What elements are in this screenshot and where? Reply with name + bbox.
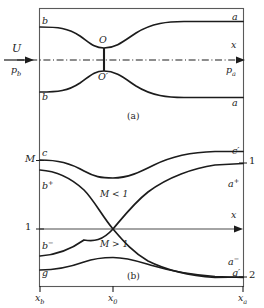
label-curve-c-prime: c′	[232, 146, 239, 156]
nozzle-lower-wall	[40, 71, 243, 98]
xtick-label-xa: xa	[238, 293, 247, 305]
label-wall-right-lower-a: a	[232, 98, 238, 108]
label-wall-left-lower-b: b	[42, 92, 48, 102]
label-curve-a-plus: a+	[228, 178, 239, 189]
label-curve-a-minus: a−	[228, 256, 239, 267]
xtick-label-x0: x0	[108, 293, 118, 305]
label-wall-right-upper-a: a	[232, 12, 238, 22]
label-wall-left-upper-b: b	[42, 16, 48, 26]
figure-frame	[40, 9, 244, 287]
label-throat-O-prime: O′	[98, 72, 108, 82]
label-curve-g-prime: g′	[232, 268, 240, 278]
curve-g-gprime	[40, 258, 243, 278]
nozzle-upper-wall	[40, 22, 243, 49]
label-region-subsonic: M < 1	[100, 190, 128, 199]
xtick-label-xb: xb	[35, 293, 45, 305]
label-curve-g: g	[42, 268, 48, 278]
label-right-tick-two: 2	[249, 270, 255, 280]
label-ordinate-M: M	[25, 154, 35, 164]
label-curve-b-minus: b−	[42, 240, 54, 251]
figure-canvas	[0, 0, 264, 308]
curve-bplus-aplus	[40, 164, 243, 230]
label-outlet-pressure-pa: pa	[226, 65, 236, 77]
label-curve-b-plus: b+	[42, 180, 54, 191]
caption-panel-a: (a)	[127, 112, 139, 121]
label-panel-b-axis-x: x	[231, 210, 236, 220]
label-inlet-velocity-U: U	[12, 43, 21, 54]
label-region-supersonic: M > 1	[100, 240, 128, 249]
panel-b-mach	[36, 152, 247, 278]
caption-panel-b: (b)	[127, 272, 140, 281]
label-inlet-pressure-pb: pb	[11, 65, 21, 77]
label-throat-O: O	[99, 35, 107, 45]
panel-a-nozzle	[4, 22, 245, 98]
inlet-flow-arrowhead	[25, 56, 34, 63]
label-left-tick-one: 1	[25, 222, 31, 232]
label-right-tick-one: 1	[249, 156, 255, 166]
label-curve-c: c	[42, 148, 47, 158]
panel-b-axis-arrowhead	[234, 225, 243, 232]
label-panel-a-axis-x: x	[231, 40, 236, 50]
figure-root: b b a a O O′ U pb pa x (a) c c′ M b+ a+ …	[0, 0, 264, 308]
curve-bminus-aminus	[40, 229, 243, 278]
